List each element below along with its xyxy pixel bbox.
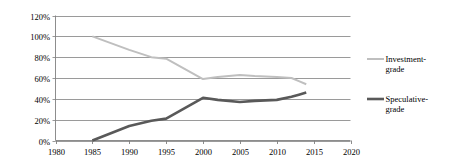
y-axis-label-6: 120%	[30, 12, 50, 22]
x-axis-label-2020: 2020	[343, 147, 360, 157]
y-tick-labels: 0%20%40%60%80%100%120%	[30, 12, 50, 147]
y-axis-label-5: 100%	[30, 32, 50, 42]
y-axis-label-0: 0%	[39, 137, 50, 147]
x-axis-label-2015: 2015	[306, 147, 323, 157]
x-axis-label-1985: 1985	[84, 147, 101, 157]
y-axis-label-3: 60%	[34, 74, 50, 84]
series-lines	[92, 36, 306, 140]
x-axis-label-2005: 2005	[232, 147, 249, 157]
chart-container: 0%20%40%60%80%100%120% 19801985199019952…	[0, 0, 453, 166]
x-tick-labels: 198019851990199520002005201020152020	[48, 147, 360, 157]
y-axis-label-1: 20%	[34, 116, 50, 126]
x-tick-marks	[57, 141, 352, 145]
y-axis-label-4: 80%	[34, 53, 50, 63]
x-axis-label-1990: 1990	[121, 147, 138, 157]
x-axis-label-2000: 2000	[195, 147, 212, 157]
series-line-investment-grade	[92, 36, 306, 84]
x-axis-label-1995: 1995	[158, 147, 175, 157]
legend: Investment-gradeSpeculative-grade	[367, 54, 428, 114]
x-axis-label-2010: 2010	[269, 147, 286, 157]
y-axis-label-2: 40%	[34, 95, 50, 105]
legend-label-2-line1: Speculative-	[386, 94, 429, 104]
x-axis-label-1980: 1980	[48, 147, 65, 157]
legend-label-1-line1: Investment-	[386, 54, 427, 64]
line-chart: 0%20%40%60%80%100%120% 19801985199019952…	[0, 0, 453, 166]
legend-label-1-line2: grade	[386, 64, 405, 74]
legend-label-2-line2: grade	[386, 104, 405, 114]
